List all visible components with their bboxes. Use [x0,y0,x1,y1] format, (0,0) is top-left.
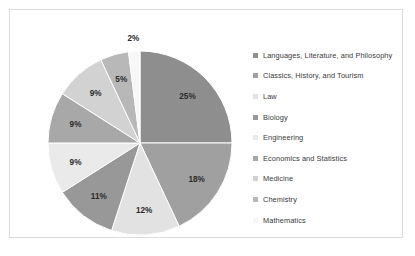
legend-item-label: Classics, History, and Tourism [263,71,364,80]
pie-data-label: 9% [70,158,83,167]
legend-item-label: Medicine [263,174,293,183]
pie-data-label: 9% [90,89,103,98]
legend-item[interactable]: Medicine [253,169,415,190]
legend-item[interactable]: Biology [253,107,415,128]
legend-swatch-icon [253,94,258,99]
pie-data-label: 18% [189,175,206,184]
pie-data-label: 12% [136,206,153,215]
legend-item[interactable]: Law [253,86,415,107]
legend-item[interactable]: Engineering [253,127,415,148]
legend-swatch-icon [253,53,258,58]
legend-item[interactable]: Classics, History, and Tourism [253,66,415,87]
chart-frame: 25%18%12%11%9%9%9%5%2% Languages, Litera… [9,9,403,238]
legend-swatch-icon [253,218,258,223]
pie-data-label: 25% [179,92,196,101]
pie-data-label: 5% [115,75,128,84]
legend-item[interactable]: Chemistry [253,189,415,210]
legend-item-label: Law [263,92,277,101]
legend-item[interactable]: Economics and Statistics [253,148,415,169]
legend-item-label: Chemistry [263,195,297,204]
legend-swatch-icon [253,156,258,161]
legend-item-label: Languages, Literature, and Philosophy [263,51,392,60]
legend-swatch-icon [253,135,258,140]
chart-legend: Languages, Literature, and PhilosophyCla… [253,45,415,230]
legend-item-label: Biology [263,113,288,122]
pie-data-label: 11% [91,192,108,201]
legend-swatch-icon [253,176,258,181]
pie-data-label: 2% [127,34,140,43]
pie-data-label: 9% [70,120,83,129]
legend-item[interactable]: Languages, Literature, and Philosophy [253,45,415,66]
legend-swatch-icon [253,197,258,202]
legend-swatch-icon [253,115,258,120]
legend-item-label: Economics and Statistics [263,154,347,163]
legend-swatch-icon [253,73,258,78]
legend-item[interactable]: Mathematics [253,210,415,231]
legend-item-label: Engineering [263,133,303,142]
pie-chart-svg: 25%18%12%11%9%9%9%5%2% [39,30,233,230]
legend-item-label: Mathematics [263,216,306,225]
pie-chart-plot-area: 25%18%12%11%9%9%9%5%2% [39,30,233,230]
